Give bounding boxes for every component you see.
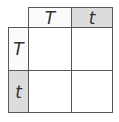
cell-tt [71,70,113,113]
top-header-recessive: t [71,7,113,28]
top-header-dominant: T [28,7,72,28]
cell-Tt-bottom [28,70,72,113]
cell-Tt-top [71,27,113,71]
left-header-recessive: t [8,70,29,113]
cell-TT [28,27,72,71]
left-header-dominant: T [8,27,29,71]
